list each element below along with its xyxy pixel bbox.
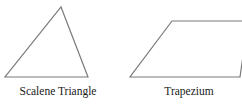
scalene-triangle-label: Scalene Triangle (0, 85, 116, 98)
geometry-shapes-figure: Scalene Triangle Trapezium (0, 0, 242, 104)
trapezium-label: Trapezium (131, 85, 242, 98)
trapezium-shape (130, 21, 242, 77)
scalene-triangle-shape (5, 7, 88, 77)
